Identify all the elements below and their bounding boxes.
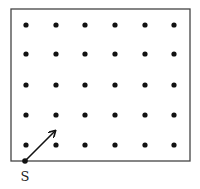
grid-dot: [23, 22, 28, 27]
grid-dot: [171, 112, 176, 117]
grid-dot: [171, 82, 176, 87]
grid-dot: [171, 51, 176, 56]
grid-dot: [171, 142, 176, 147]
grid-dot: [142, 51, 147, 56]
grid-dot: [112, 51, 117, 56]
grid-frame: [11, 9, 190, 161]
grid-dot: [142, 142, 147, 147]
grid-dot: [23, 51, 28, 56]
grid-dot: [112, 82, 117, 87]
grid-dot: [112, 22, 117, 27]
start-point-dot: [22, 158, 28, 164]
grid-dot: [82, 51, 87, 56]
grid-dots: [23, 22, 176, 147]
grid-dot: [142, 112, 147, 117]
dot-grid-diagram: S: [0, 0, 200, 189]
grid-dot: [23, 142, 28, 147]
grid-dot: [112, 112, 117, 117]
grid-dot: [171, 22, 176, 27]
grid-dot: [82, 82, 87, 87]
grid-dot: [82, 112, 87, 117]
grid-dot: [82, 22, 87, 27]
grid-dot: [142, 22, 147, 27]
arrow-icon: [25, 131, 55, 161]
grid-dot: [23, 82, 28, 87]
grid-dot: [23, 112, 28, 117]
grid-dot: [112, 142, 117, 147]
start-point-label: S: [21, 169, 30, 184]
grid-dot: [82, 142, 87, 147]
grid-dot: [53, 82, 58, 87]
grid-dot: [53, 142, 58, 147]
grid-dot: [53, 22, 58, 27]
grid-dot: [142, 82, 147, 87]
grid-dot: [53, 112, 58, 117]
grid-dot: [53, 51, 58, 56]
